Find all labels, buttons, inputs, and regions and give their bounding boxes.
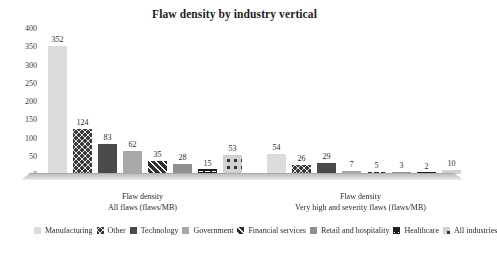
legend-swatch-icon — [237, 227, 244, 234]
legend-item-label: Retail and hospitality — [321, 226, 389, 235]
y-axis-tick-label: 400 — [25, 24, 37, 33]
axis-floor — [21, 173, 464, 180]
legend-item[interactable]: All industries — [443, 224, 497, 236]
bar-value-label: 5 — [375, 161, 379, 170]
legend-item[interactable]: Technology — [130, 224, 179, 236]
bar-value-label: 352 — [52, 35, 64, 44]
bar-value-label: 62 — [129, 140, 137, 149]
legend-item-label: Financial services — [248, 226, 306, 235]
chart-title: Flaw density by industry vertical — [0, 8, 469, 20]
bar-value-label: 7 — [350, 160, 354, 169]
legend-item-label: Manufacturing — [45, 226, 93, 235]
legend-item[interactable]: Retail and hospitality — [310, 224, 389, 236]
bar-value-label: 10 — [448, 159, 456, 168]
legend-item[interactable]: Financial services — [237, 224, 306, 236]
legend-item-label: Government — [193, 226, 233, 235]
legend-item-label: All industries — [454, 226, 497, 235]
legend-swatch-icon — [443, 227, 450, 234]
bar-value-label: 2 — [425, 162, 429, 171]
bar-value-label: 15 — [204, 159, 212, 168]
bar-value-label: 26 — [298, 154, 306, 163]
legend-swatch-icon — [182, 227, 189, 234]
legend-swatch-icon — [130, 227, 137, 234]
y-axis-tick-label: 200 — [25, 97, 37, 106]
y-axis-tick-label: 150 — [25, 115, 37, 124]
bar-value-label: 83 — [104, 133, 112, 142]
y-axis-tick-label: 50 — [29, 151, 37, 160]
plot-area: 050100150200250300350400 352124836235281… — [42, 28, 454, 174]
group-caption-line1: Flaw density — [258, 192, 463, 203]
group-caption-line2: Very high and severity flaws (flaws/MB) — [258, 203, 463, 214]
axis-baseline — [30, 173, 454, 174]
y-axis-tick-label: 100 — [25, 133, 37, 142]
bar: 352 — [48, 46, 67, 174]
group-caption-all-flaws: Flaw density All flaws (flaws/MB) — [55, 192, 230, 213]
bar: 54 — [267, 154, 286, 174]
y-axis-tick-label: 250 — [25, 78, 37, 87]
bar: 62 — [123, 151, 142, 174]
legend-swatch-icon — [97, 227, 104, 234]
bar-value-label: 35 — [154, 150, 162, 159]
chart-legend: ManufacturingOtherTechnologyGovernmentFi… — [34, 224, 454, 236]
legend-item[interactable]: Other — [97, 224, 126, 236]
group-caption-line2: All flaws (flaws/MB) — [55, 203, 230, 214]
bar-value-label: 54 — [273, 143, 281, 152]
bar-value-label: 3 — [400, 161, 404, 170]
bar-value-label: 28 — [179, 153, 187, 162]
group-caption-line1: Flaw density — [55, 192, 230, 203]
legend-item[interactable]: Healthcare — [393, 224, 439, 236]
group-caption-very-high-flaws: Flaw density Very high and severity flaw… — [258, 192, 463, 213]
bar-value-label: 29 — [323, 152, 331, 161]
bar: 124 — [73, 129, 92, 174]
bar-value-label: 53 — [229, 144, 237, 153]
legend-item-label: Healthcare — [404, 226, 439, 235]
y-axis-tick-label: 350 — [25, 42, 37, 51]
legend-swatch-icon — [393, 227, 400, 234]
legend-item[interactable]: Manufacturing — [34, 224, 93, 236]
bar-value-label: 124 — [77, 118, 89, 127]
bar: 53 — [223, 155, 242, 174]
legend-item[interactable]: Government — [182, 224, 233, 236]
y-axis-tick-label: 300 — [25, 60, 37, 69]
legend-item-label: Technology — [141, 226, 179, 235]
legend-swatch-icon — [310, 227, 317, 234]
bar: 83 — [98, 144, 117, 174]
legend-swatch-icon — [34, 227, 41, 234]
legend-item-label: Other — [108, 226, 126, 235]
